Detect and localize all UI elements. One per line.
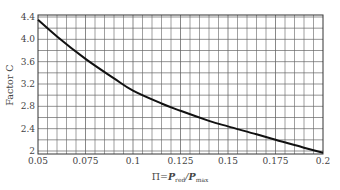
x-axis-label: Π=Pred/Pmax (152, 171, 209, 183)
y-axis-ticks: 4.44.03.63.22.82.42 (21, 12, 36, 156)
x-axis-ticks: 0.050.0750.10.1250.150.1750.2 (28, 156, 330, 166)
x-tick-label: 0.175 (263, 156, 289, 166)
x-tick-label: 0.075 (73, 156, 99, 166)
y-tick-label: 3.6 (21, 57, 36, 67)
factor-c-chart: 4.44.03.63.22.82.42 0.050.0750.10.1250.1… (0, 0, 340, 190)
y-axis-label: Factor C (4, 64, 15, 105)
y-tick-label: 4.0 (21, 34, 36, 44)
y-tick-label: 2.4 (21, 124, 36, 134)
x-tick-label: 0.1 (126, 156, 140, 166)
y-tick-label: 3.2 (21, 79, 35, 89)
x-tick-label: 0.15 (218, 156, 238, 166)
y-tick-label: 2 (29, 146, 35, 156)
x-tick-label: 0.05 (28, 156, 48, 166)
x-tick-label: 0.125 (168, 156, 194, 166)
y-tick-label: 4.4 (21, 12, 36, 22)
x-tick-label: 0.2 (316, 156, 330, 166)
grid-lines (38, 15, 323, 154)
y-tick-label: 2.8 (21, 101, 36, 111)
